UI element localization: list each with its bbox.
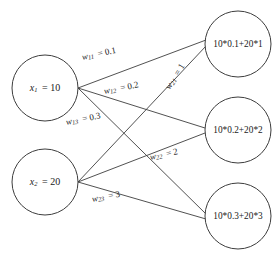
output-node-o2-label: 10*0.2+20*2 xyxy=(213,125,263,135)
edge-x2-to-o2 xyxy=(78,133,205,182)
input-node-x1[interactable]: x1 = 10 xyxy=(12,55,78,121)
input-node-x2[interactable]: x2 = 20 xyxy=(12,149,78,215)
edge-x1-to-o2 xyxy=(78,88,205,128)
w11-equals: = 0.1 xyxy=(94,45,116,59)
w23-equals: = 3 xyxy=(105,189,121,202)
output-node-o2[interactable]: 10*0.2+20*2 xyxy=(205,97,271,163)
w12-subscript: 12 xyxy=(109,87,117,95)
w22-equals: = 2 xyxy=(163,146,179,159)
w23-subscript: 23 xyxy=(97,195,105,203)
output-node-o3-label: 10*0.3+20*3 xyxy=(213,211,263,221)
edge-x1-to-o3 xyxy=(78,88,206,214)
edge-label-w12: w12 = 0.2 xyxy=(103,79,140,96)
w13-equals: = 0.3 xyxy=(79,110,102,124)
input-node-x2-label: x2 = 20 xyxy=(29,176,60,187)
edge-label-w13: w13 = 0.3 xyxy=(65,110,102,127)
output-node-o1[interactable]: 10*0.1+20*1 xyxy=(205,11,271,77)
output-node-o1-label: 10*0.1+20*1 xyxy=(213,39,263,49)
input-x1-subscript: 1 xyxy=(34,86,37,93)
edge-label-w11: w11 = 0.1 xyxy=(81,45,117,62)
edge-label-w22: w22 = 2 xyxy=(149,146,179,162)
w11-subscript: 11 xyxy=(87,53,94,61)
edge-x1-to-o1 xyxy=(78,40,206,88)
input-x1-equals: = 10 xyxy=(40,82,61,93)
neural-network-diagram: x1 = 10 x2 = 20 10*0.1+20*1 10*0.2+20*2 … xyxy=(0,0,277,261)
w22-subscript: 22 xyxy=(155,153,163,161)
input-node-x1-label: x1 = 10 xyxy=(29,82,60,93)
output-node-o3[interactable]: 10*0.3+20*3 xyxy=(205,183,271,249)
network-svg-canvas: x1 = 10 x2 = 20 10*0.1+20*1 10*0.2+20*2 … xyxy=(0,0,277,261)
input-x2-equals: = 20 xyxy=(40,176,61,187)
edge-label-w21: w21 = 1 xyxy=(163,62,187,92)
w12-equals: = 0.2 xyxy=(117,79,139,93)
edge-group xyxy=(78,40,206,219)
edge-label-w23: w23 = 3 xyxy=(91,189,121,205)
w13-subscript: 13 xyxy=(71,118,79,126)
w21-equals: = 1 xyxy=(171,62,187,79)
